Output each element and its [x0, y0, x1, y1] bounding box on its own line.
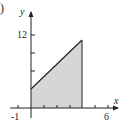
- y-ticks: [31, 35, 35, 71]
- x-axis-arrow-icon: [113, 106, 119, 111]
- y-axis-label: y: [19, 6, 25, 17]
- part-label: ): [0, 1, 4, 15]
- x-tick-label-neg1: -1: [11, 111, 19, 122]
- x-axis-label: x: [113, 95, 119, 106]
- y-tick-label-12: 12: [17, 29, 27, 40]
- y-axis-arrow-icon: [29, 11, 34, 17]
- shaded-region: [31, 40, 82, 108]
- x-tick-label-6: 6: [104, 111, 109, 122]
- region-diagram: ) y x 12 -1 6: [0, 0, 124, 125]
